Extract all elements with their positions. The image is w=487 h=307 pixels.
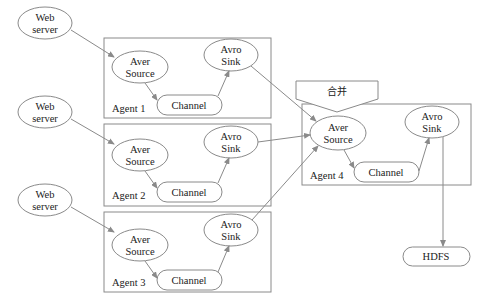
agent-3-sink-label-2: Sink xyxy=(221,231,241,242)
agent-1-source-label-2: Source xyxy=(125,68,154,79)
web-server-1-label-2: server xyxy=(32,24,58,35)
edge-a1-channel-sink xyxy=(218,71,229,96)
agent-2-source-label-1: Aver xyxy=(130,144,151,155)
merge-label: 合并 xyxy=(327,85,347,97)
edge-a4-channel-sink xyxy=(419,138,429,171)
edge-web1-source1 xyxy=(71,30,114,57)
edge-a2-channel-sink xyxy=(218,158,229,183)
edge-a3-channel-sink xyxy=(218,246,229,272)
agent-3-source-label-2: Source xyxy=(125,246,154,257)
web-server-3-label-1: Web xyxy=(36,189,55,200)
web-server-3-label-2: server xyxy=(32,201,58,212)
edge-sink3-agent4 xyxy=(252,146,318,220)
agent-3-source-label-1: Aver xyxy=(130,234,151,245)
agent-3-label: Agent 3 xyxy=(112,277,146,288)
agent-4-sink-label-2: Sink xyxy=(422,123,442,134)
agent-2-label: Agent 2 xyxy=(112,190,146,201)
agent-1-label: Agent 1 xyxy=(112,103,146,114)
agent-4-source-label-2: Source xyxy=(323,134,352,145)
agent-3-sink-label-1: Avro xyxy=(221,219,242,230)
agent-4-sink-label-1: Avro xyxy=(422,111,443,122)
agent-4-label: Agent 4 xyxy=(310,170,344,181)
edge-a1-source-channel xyxy=(145,83,157,100)
agent-1-sink-label-2: Sink xyxy=(221,56,241,67)
web-server-2-label-1: Web xyxy=(36,101,55,112)
agent-2-channel-label: Channel xyxy=(172,187,207,198)
agent-3-channel-label: Channel xyxy=(172,275,207,286)
agent-1-sink-label-1: Avro xyxy=(221,44,242,55)
agent-4-source-label-1: Aver xyxy=(328,122,349,133)
hdfs-label: HDFS xyxy=(423,251,450,262)
agent-2-source-label-2: Source xyxy=(125,156,154,167)
edge-web3-source3 xyxy=(71,207,114,232)
edge-web2-source2 xyxy=(71,119,114,144)
agent-1-channel-label: Channel xyxy=(172,100,207,111)
flume-consolidation-diagram: Web server Web server Web server Aver So… xyxy=(0,0,487,307)
agent-2-sink-label-2: Sink xyxy=(221,143,241,154)
web-server-1-label-1: Web xyxy=(36,12,55,23)
agent-2-sink-label-1: Avro xyxy=(221,131,242,142)
agent-4-channel-label: Channel xyxy=(369,167,404,178)
edge-a3-source-channel xyxy=(145,261,157,278)
edge-a2-source-channel xyxy=(145,171,157,188)
agent-1-source-label-1: Aver xyxy=(130,56,151,67)
web-server-2-label-2: server xyxy=(32,113,58,124)
edge-a4-source-channel xyxy=(344,150,354,168)
